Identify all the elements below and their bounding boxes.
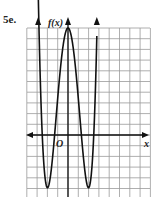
- curve-right-arrow-icon: [94, 17, 100, 25]
- y-axis: [65, 17, 71, 197]
- grid-lines: [27, 28, 151, 197]
- function-graph: f(x) x O: [0, 0, 163, 197]
- origin-label: O: [56, 138, 63, 149]
- y-axis-label: f(x): [48, 17, 63, 29]
- y-axis-up-arrow-icon: [65, 17, 71, 25]
- curve-left-arrow-icon: [35, 17, 41, 25]
- x-axis-label: x: [143, 138, 149, 149]
- x-axis: [26, 132, 149, 138]
